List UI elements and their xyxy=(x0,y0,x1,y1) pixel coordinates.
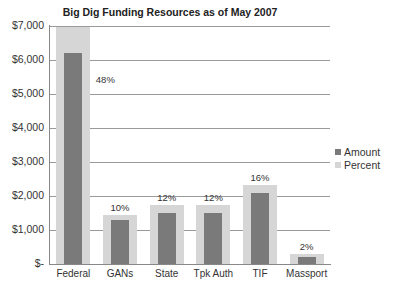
x-tick-label: Tpk Auth xyxy=(189,268,237,279)
plot-area xyxy=(50,25,330,264)
y-axis-line xyxy=(49,25,50,265)
amount-swatch-icon xyxy=(335,149,341,155)
x-tick-label: TIF xyxy=(236,268,284,279)
y-tick-label: $2,000 xyxy=(0,189,44,201)
percent-swatch-icon xyxy=(335,162,341,168)
amount-bar xyxy=(111,220,129,264)
legend-label-amount: Amount xyxy=(344,146,380,158)
percent-label: 12% xyxy=(193,192,233,203)
percent-label: 2% xyxy=(287,241,327,252)
gridline xyxy=(50,162,330,163)
percent-label: 12% xyxy=(147,192,187,203)
legend-item-percent: Percent xyxy=(335,158,380,171)
gridline xyxy=(50,196,330,197)
y-tick-label: $5,000 xyxy=(0,87,44,99)
percent-label: 48% xyxy=(85,74,125,85)
x-tick-label: Massport xyxy=(283,268,331,279)
y-tick-label: $7,000 xyxy=(0,19,44,31)
x-tick-label: State xyxy=(143,268,191,279)
y-tick-label: $3,000 xyxy=(0,155,44,167)
x-tick-label: GANs xyxy=(96,268,144,279)
percent-label: 10% xyxy=(100,202,140,213)
gridline xyxy=(50,60,330,61)
amount-bar xyxy=(204,213,222,264)
amount-bar xyxy=(64,53,82,264)
amount-bar xyxy=(298,257,316,264)
y-tick-label: $4,000 xyxy=(0,121,44,133)
legend-label-percent: Percent xyxy=(344,159,380,171)
legend: Amount Percent xyxy=(335,145,380,171)
gridline xyxy=(50,128,330,129)
amount-bar xyxy=(251,193,269,264)
y-tick-label: $6,000 xyxy=(0,53,44,65)
chart-title: Big Dig Funding Resources as of May 2007 xyxy=(0,6,340,18)
y-tick-label: $1,000 xyxy=(0,223,44,235)
gridline xyxy=(50,230,330,231)
percent-label: 16% xyxy=(240,172,280,183)
x-axis-line xyxy=(49,264,331,265)
x-tick-label: Federal xyxy=(49,268,97,279)
gridline xyxy=(50,94,330,95)
gridline xyxy=(50,26,330,27)
amount-bar xyxy=(158,213,176,264)
y-tick-label: $- xyxy=(0,257,44,269)
legend-item-amount: Amount xyxy=(335,145,380,158)
